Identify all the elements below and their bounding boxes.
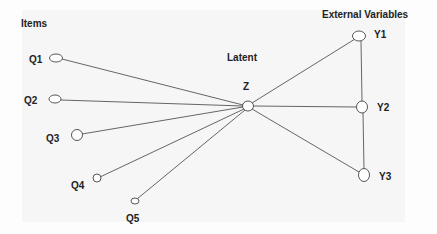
item-nodes xyxy=(49,54,139,204)
heading-items: Items xyxy=(21,18,48,29)
edge-y1-y2 xyxy=(361,41,362,101)
label-q3: Q3 xyxy=(46,133,60,144)
edge-z-y2 xyxy=(253,106,357,107)
node-q2[interactable] xyxy=(49,95,61,103)
label-y2: Y2 xyxy=(377,102,390,113)
label-q5: Q5 xyxy=(126,213,140,224)
edges xyxy=(61,39,364,199)
heading-latent: Latent xyxy=(227,52,258,63)
edge-q1-z xyxy=(62,59,243,105)
label-q1: Q1 xyxy=(29,54,43,65)
node-y2[interactable] xyxy=(357,101,368,113)
edge-z-y1 xyxy=(252,39,355,103)
label-z: Z xyxy=(243,81,249,92)
edge-y2-y3 xyxy=(363,113,364,169)
heading-external-variables: External Variables xyxy=(322,9,409,20)
label-y3: Y3 xyxy=(379,171,392,182)
node-y1[interactable] xyxy=(353,31,366,41)
edge-z-y3 xyxy=(252,109,359,172)
label-q2: Q2 xyxy=(24,95,38,106)
label-y1: Y1 xyxy=(374,29,387,40)
node-q3[interactable] xyxy=(72,130,83,141)
edge-q2-z xyxy=(61,100,243,106)
diagram-svg: Items Latent External Variables Q1 Q2 Q3… xyxy=(0,0,437,234)
node-q4[interactable] xyxy=(93,174,101,182)
node-q5[interactable] xyxy=(131,198,139,204)
node-q1[interactable] xyxy=(50,54,63,62)
edge-q5-z xyxy=(137,110,245,199)
diagram-canvas: Items Latent External Variables Q1 Q2 Q3… xyxy=(0,0,437,234)
label-q4: Q4 xyxy=(71,180,85,191)
node-y3[interactable] xyxy=(359,169,370,182)
node-z[interactable] xyxy=(243,101,254,111)
